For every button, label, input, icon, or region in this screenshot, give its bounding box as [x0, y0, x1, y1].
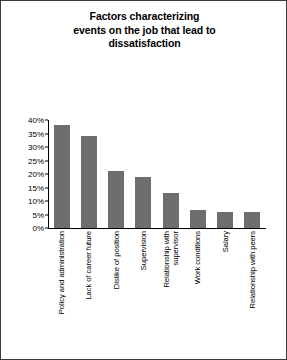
x-axis-label: Work conditions: [184, 231, 211, 284]
chart-figure: Factors characterizing events on the job…: [0, 0, 287, 360]
x-axis-label: Dislike of position: [103, 231, 130, 289]
x-axis-label: Policy and administration: [48, 231, 75, 314]
x-axis-label-line: Policy and administration: [57, 231, 66, 314]
bar-series: [48, 120, 266, 228]
chart-title-line-3: dissatisfaction: [19, 37, 270, 51]
x-axis-label-line: Relationship with peers: [248, 231, 257, 308]
x-axis-label-line: supervisor: [171, 231, 180, 266]
chart-title-line-1: Factors characterizing: [19, 10, 270, 24]
bar: [190, 210, 206, 228]
x-axis-labels: Policy and administrationLack of career …: [48, 231, 266, 356]
bar: [163, 193, 179, 228]
bar: [217, 212, 233, 228]
bar: [54, 125, 70, 228]
x-axis-label-line: Work conditions: [193, 231, 202, 284]
chart-title-line-2: events on the job that lead to: [19, 24, 270, 38]
plot-area: 0%5%10%15%20%25%30%35%40%: [48, 120, 266, 228]
x-axis-label: Relationship with peers: [239, 231, 266, 308]
x-axis-label-line: Dislike of position: [112, 231, 121, 289]
x-axis-line: [48, 228, 266, 229]
x-axis-label: Salary: [212, 231, 239, 252]
x-axis-label-line: Lack of career future: [84, 231, 93, 300]
x-axis-label: Lack of career future: [75, 231, 102, 300]
x-axis-label: Relationship withsupervisor: [157, 231, 184, 288]
bar: [244, 212, 260, 228]
bar: [135, 177, 151, 228]
bar: [81, 136, 97, 228]
bar: [108, 171, 124, 228]
x-axis-label: Supervision: [130, 231, 157, 270]
x-axis-label-line: Relationship with: [162, 231, 171, 288]
chart-title: Factors characterizing events on the job…: [19, 10, 270, 51]
x-axis-label-line: Salary: [221, 231, 230, 252]
x-axis-label-line: Supervision: [139, 231, 148, 270]
